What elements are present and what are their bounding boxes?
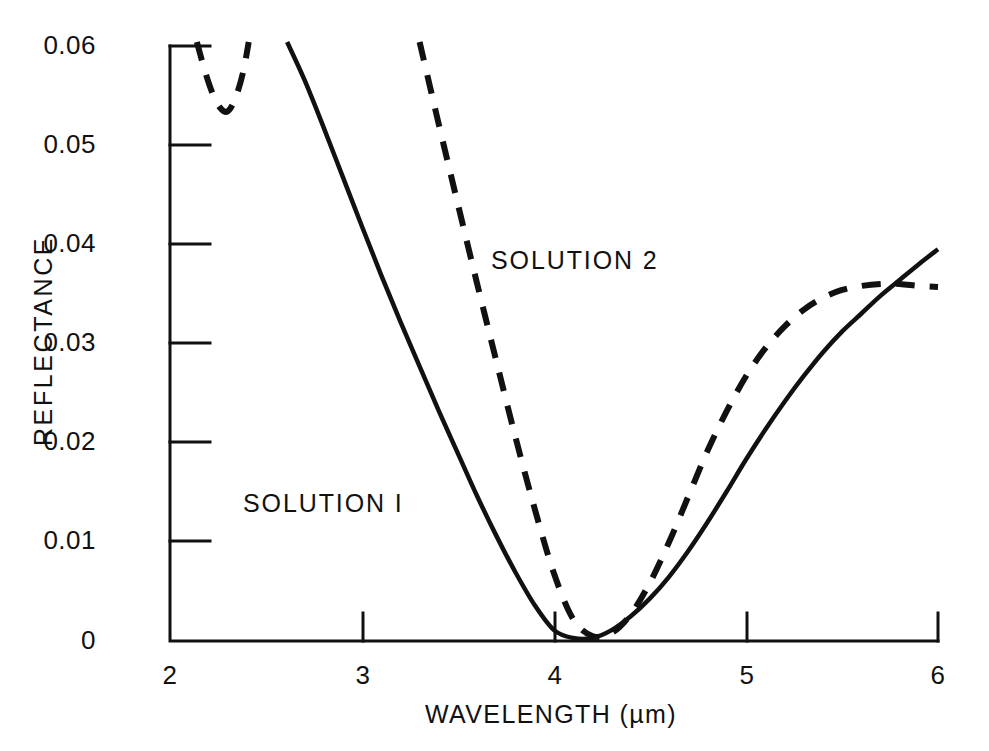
chart-plot-area: REFLECTANCE	[0, 0, 989, 751]
data-series-layer	[197, 42, 938, 639]
y-tick-label-0: 0	[81, 625, 96, 656]
x-axis-title: WAVELENGTH (µm)	[425, 700, 677, 729]
y-tick-label-0.04: 0.04	[43, 228, 96, 259]
y-tick-label-0.06: 0.06	[43, 30, 96, 61]
x-tick-label-4: 4	[548, 660, 563, 691]
y-tick-label-0.02: 0.02	[43, 426, 96, 457]
x-tick-label-6: 6	[931, 660, 946, 691]
series-label-solution-1: SOLUTION I	[243, 489, 404, 518]
series-label-solution-2: SOLUTION 2	[491, 246, 659, 275]
series-curve-solution-2-seg0	[197, 42, 249, 112]
y-tick-label-0.01: 0.01	[43, 525, 96, 556]
x-axis-tick-marks	[363, 613, 938, 641]
y-tick-label-0.05: 0.05	[43, 129, 96, 160]
y-tick-label-0.03: 0.03	[43, 327, 96, 358]
axis-spines	[170, 46, 938, 641]
y-axis-tick-marks	[170, 46, 210, 541]
figure-container: REFLECTANCE 0.06 0.05 0.04 0.03 0.02 0.0…	[0, 0, 989, 751]
series-curve-solution-i	[287, 42, 938, 639]
x-tick-label-5: 5	[740, 660, 755, 691]
series-curve-solution-2-seg1	[420, 42, 938, 637]
x-tick-label-3: 3	[356, 660, 371, 691]
x-tick-label-2: 2	[163, 660, 178, 691]
